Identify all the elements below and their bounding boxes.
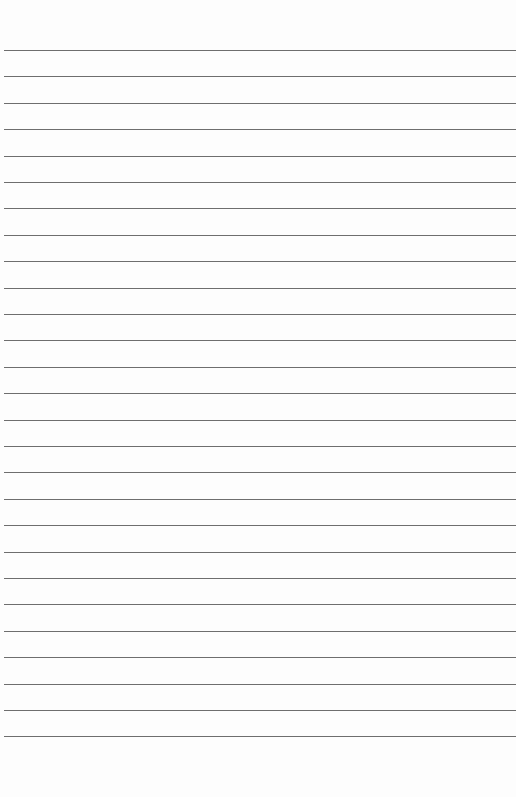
ruled-line [4, 393, 516, 394]
ruled-line [4, 156, 516, 157]
ruled-line [4, 552, 516, 553]
ruled-line [4, 684, 516, 685]
ruled-line [4, 103, 516, 104]
ruled-line [4, 50, 516, 51]
ruled-line [4, 288, 516, 289]
ruled-line [4, 736, 516, 737]
ruled-line [4, 446, 516, 447]
ruled-line [4, 340, 516, 341]
ruled-line [4, 578, 516, 579]
ruled-line [4, 76, 516, 77]
ruled-line [4, 129, 516, 130]
ruled-line [4, 314, 516, 315]
ruled-line [4, 525, 516, 526]
ruled-line [4, 261, 516, 262]
ruled-line [4, 420, 516, 421]
ruled-line [4, 499, 516, 500]
ruled-line [4, 710, 516, 711]
ruled-paper-sheet [0, 0, 516, 797]
ruled-line [4, 472, 516, 473]
ruled-line [4, 367, 516, 368]
ruled-line [4, 631, 516, 632]
ruled-line [4, 208, 516, 209]
ruled-line [4, 604, 516, 605]
ruled-line [4, 182, 516, 183]
ruled-line [4, 235, 516, 236]
ruled-line [4, 657, 516, 658]
